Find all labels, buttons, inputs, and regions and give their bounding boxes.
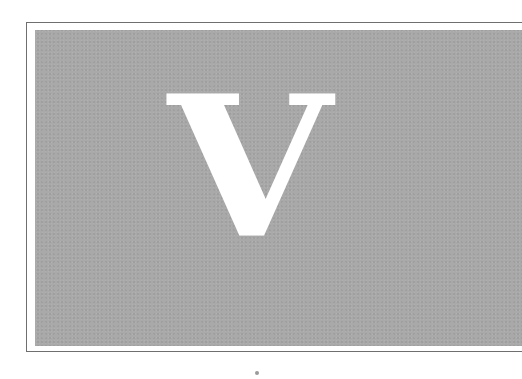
dust-speck bbox=[255, 371, 259, 375]
large-letter: V bbox=[165, 70, 335, 272]
page: V bbox=[0, 0, 522, 379]
